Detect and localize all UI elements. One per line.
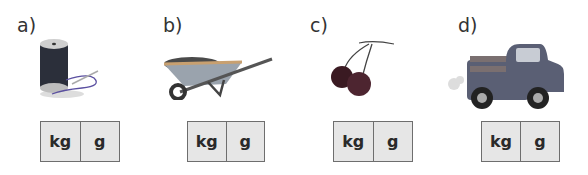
unit-choice-box: kg g <box>187 121 265 162</box>
item-c: c) kg g <box>300 0 440 175</box>
unit-choice-box: kg g <box>40 121 120 162</box>
wheelbarrow-icon <box>162 50 274 100</box>
unit-option-kg[interactable]: kg <box>188 122 226 161</box>
thread-spool-icon <box>32 38 107 100</box>
unit-option-kg[interactable]: kg <box>41 122 80 161</box>
unit-option-g[interactable]: g <box>80 122 120 161</box>
unit-choice-box: kg g <box>333 121 413 162</box>
unit-option-g[interactable]: g <box>226 122 265 161</box>
unit-option-kg[interactable]: kg <box>334 122 373 161</box>
item-label: c) <box>310 14 328 36</box>
item-d: d) kg g <box>440 0 588 175</box>
item-a: a) kg g <box>0 0 150 175</box>
cherries-icon <box>324 40 399 100</box>
item-label: a) <box>17 14 36 36</box>
unit-option-kg[interactable]: kg <box>482 122 520 161</box>
item-b: b) kg g <box>150 0 300 175</box>
unit-option-g[interactable]: g <box>520 122 559 161</box>
unit-option-g[interactable]: g <box>373 122 413 161</box>
item-label: d) <box>458 14 477 36</box>
item-label: b) <box>163 14 182 36</box>
unit-choice-box: kg g <box>481 121 560 162</box>
truck-icon <box>440 40 575 112</box>
